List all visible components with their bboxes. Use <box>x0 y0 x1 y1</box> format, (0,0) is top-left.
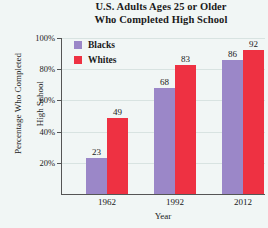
chart-title-line-1: U.S. Adults Ages 25 or Older <box>58 1 264 14</box>
x-axis-title: Year <box>61 211 265 221</box>
bar-group: 6883 <box>154 38 196 194</box>
bar-blacks-1962: 23 <box>86 158 107 194</box>
legend-item-blacks: Blacks <box>74 38 117 51</box>
bar-blacks-1992: 68 <box>154 88 175 194</box>
y-tick-label: 40% <box>39 127 55 137</box>
y-tick-label: 80% <box>39 64 55 74</box>
legend-item-whites: Whites <box>74 53 117 66</box>
legend-label-whites: Whites <box>88 55 117 65</box>
x-tick-label-2012: 2012 <box>234 197 252 207</box>
bar-whites-1992: 83 <box>175 65 196 194</box>
bar-value-label: 23 <box>92 147 101 157</box>
x-axis-line <box>61 194 265 195</box>
legend-swatch-whites-icon <box>74 56 82 64</box>
y-tick-label: 60% <box>39 95 55 105</box>
x-tick-label-1992: 1992 <box>166 197 184 207</box>
chart-title-line-2: Who Completed High School <box>58 14 264 27</box>
y-axis-title-line-1: Percentage Who Completed <box>13 29 24 179</box>
bar-value-label: 68 <box>160 77 169 87</box>
bar-blacks-2012: 86 <box>222 60 243 194</box>
bar-value-label: 86 <box>228 49 237 59</box>
bar-whites-1962: 49 <box>107 118 128 194</box>
y-tick-label: 20% <box>39 158 55 168</box>
y-axis-line <box>61 38 62 195</box>
y-axis-tick <box>57 69 61 70</box>
y-axis-tick <box>57 163 61 164</box>
y-axis-tick <box>57 100 61 101</box>
y-axis-tick <box>57 38 61 39</box>
legend-swatch-blacks-icon <box>74 41 82 49</box>
y-tick-label: 100% <box>35 33 55 43</box>
x-tick-label-1962: 1962 <box>98 197 116 207</box>
bar-value-label: 49 <box>113 107 122 117</box>
chart-legend: Blacks Whites <box>74 38 117 68</box>
bar-chart: U.S. Adults Ages 25 or Older Who Complet… <box>0 0 268 228</box>
legend-label-blacks: Blacks <box>88 40 115 50</box>
bar-group: 8692 <box>222 38 264 194</box>
bar-value-label: 83 <box>181 54 190 64</box>
y-axis-tick <box>57 132 61 133</box>
chart-title: U.S. Adults Ages 25 or Older Who Complet… <box>58 1 264 26</box>
bar-whites-2012: 92 <box>243 50 264 194</box>
bar-value-label: 92 <box>249 39 258 49</box>
